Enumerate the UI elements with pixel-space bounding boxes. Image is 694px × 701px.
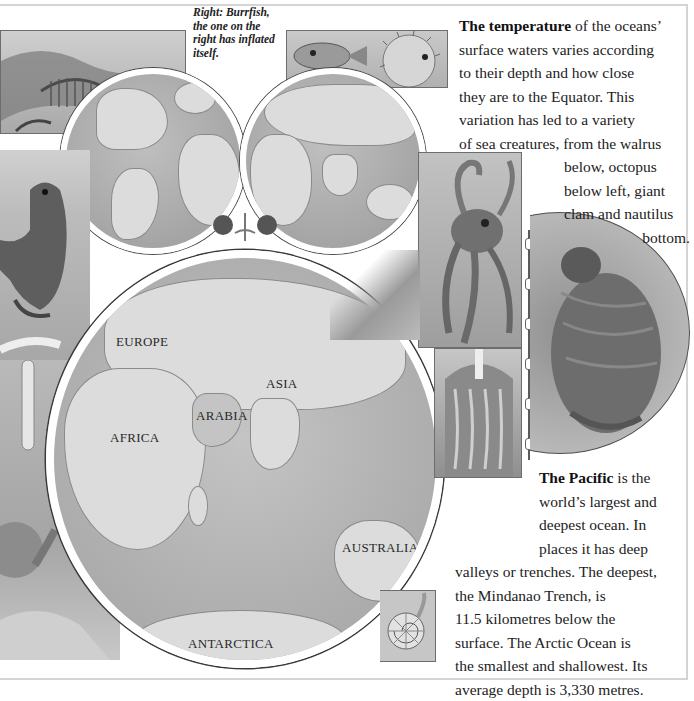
text-line: they are to the Equator. This [459, 85, 691, 109]
temperature-paragraph-indented: below, octopus below left, giant clam an… [564, 155, 690, 249]
label-asia: ASIA [266, 376, 298, 392]
octopus-tentacles-overflow [330, 250, 420, 340]
vertical-divider [528, 230, 530, 460]
label-antarctica: ANTARCTICA [188, 636, 274, 652]
text-line: clam and nautilus [564, 202, 690, 226]
label-arabia: ARABIA [196, 408, 248, 424]
india-big-land [250, 398, 300, 470]
text-line: below left, giant [564, 179, 690, 203]
text-line: is the [613, 469, 650, 486]
text-line: surface waters varies according [459, 38, 691, 62]
temperature-paragraph: The temperature of the oceans’ surface w… [459, 14, 691, 155]
text-line: of sea creatures, from the walrus [459, 132, 691, 156]
nautilus-illustration [380, 590, 436, 662]
pacific-paragraph-narrow: The Pacific is the world’s largest and d… [539, 466, 691, 560]
pacific-paragraph-wide: valleys or trenches. The deepest, the Mi… [455, 560, 691, 701]
label-europe: EUROPE [116, 334, 168, 350]
text-line: to their depth and how close [459, 61, 691, 85]
text-line: places it has deep [539, 537, 691, 561]
burrfish-caption: Right: Burrfish, the one on the right ha… [193, 6, 283, 60]
ornament-icon [205, 205, 285, 251]
label-africa: AFRICA [110, 430, 159, 446]
text-line: valleys or trenches. The deepest, [455, 560, 691, 584]
text-line: bottom. [564, 226, 690, 250]
text-line: variation has led to a variety [459, 108, 691, 132]
text-line: surface. The Arctic Ocean is [455, 631, 691, 655]
text-line: deepest ocean. In [539, 513, 691, 537]
pacific-lead: The Pacific [539, 469, 613, 486]
giant-clam-illustration [434, 348, 522, 478]
south-america-land [111, 168, 159, 240]
australia-small-land [366, 184, 414, 220]
text-line: world’s largest and [539, 490, 691, 514]
marine-iguana-illustration [0, 150, 90, 360]
greenland-land [174, 82, 216, 114]
africa-land [64, 368, 206, 550]
text-line: the smallest and shallowest. Its [455, 654, 691, 678]
text-line: 11.5 kilometres below the [455, 607, 691, 631]
text-line: average depth is 3,330 metres. [455, 678, 691, 701]
text-line: below, octopus [564, 155, 690, 179]
label-australia: AUSTRALIA [342, 540, 418, 556]
temperature-lead: The temperature [459, 17, 571, 34]
text-line: the Mindanao Trench, is [455, 584, 691, 608]
text-line: of the oceans’ [571, 17, 662, 34]
india-land [322, 154, 358, 196]
octopus-illustration [418, 152, 522, 348]
north-america-land [96, 88, 168, 150]
madagascar-land [188, 486, 208, 526]
